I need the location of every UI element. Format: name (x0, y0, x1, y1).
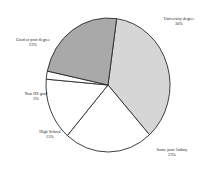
pie-label-university-degree-value: 36% (150, 22, 208, 27)
pie-label-some-post-2ndary-value: 23% (144, 153, 200, 158)
pie-label-some-post-2ndary: Some post 2ndary 23% (144, 148, 200, 158)
pie-label-university-degree: University degree 36% (150, 17, 208, 27)
pie-label-high-school: High School 15% (28, 130, 72, 140)
pie-label-grad-or-prof-degree: Grad or prof degree 22% (2, 38, 64, 48)
pie-label-non-hs-grad-value: 2% (14, 97, 58, 102)
pie-label-high-school-value: 15% (28, 135, 72, 140)
pie-label-grad-or-prof-degree-value: 22% (2, 43, 64, 48)
pie-label-non-hs-grad: Non HS grad 2% (14, 92, 58, 102)
pie-chart-figure: University degree 36% Grad or prof degre… (0, 0, 210, 173)
